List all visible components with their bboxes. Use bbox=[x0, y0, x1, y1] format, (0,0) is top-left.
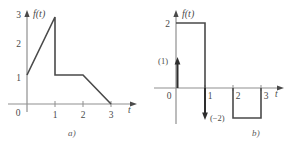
pulse-positive-b bbox=[176, 23, 205, 88]
x-tick-a-2: 2 bbox=[81, 110, 86, 120]
x-tick-b-1: 1 bbox=[208, 91, 213, 101]
y-tick-a-2: 2 bbox=[16, 39, 21, 49]
y-axis-label-b: f(t) bbox=[182, 8, 195, 20]
y-tick-a-1: 1 bbox=[16, 73, 21, 83]
figure-panel-b: f(t) t 0 2 1 2 3 (1) bbox=[148, 0, 297, 147]
panel-caption-a: a) bbox=[68, 128, 76, 138]
plot-a: f(t) t 0 1 2 3 1 2 3 bbox=[0, 0, 148, 147]
x-tick-a-3: 3 bbox=[109, 110, 114, 120]
figure-pair: f(t) t 0 1 2 3 1 2 3 a) bbox=[0, 0, 297, 147]
x-axis-label-b: t bbox=[275, 89, 278, 99]
x-axis-b bbox=[154, 85, 284, 90]
origin-label-a: 0 bbox=[16, 108, 21, 118]
impulse-positive-label-b: (1) bbox=[158, 56, 168, 66]
origin-label-b: 0 bbox=[167, 91, 172, 101]
curve-a bbox=[27, 17, 111, 104]
y-axis-a bbox=[24, 10, 29, 112]
x-tick-b-2: 2 bbox=[236, 91, 241, 101]
impulse-negative-label-b: (−2) bbox=[210, 113, 225, 123]
x-axis-label-a: t bbox=[128, 105, 131, 115]
plot-b: f(t) t 0 2 1 2 3 (1) bbox=[148, 0, 297, 147]
figure-panel-a: f(t) t 0 1 2 3 1 2 3 a) bbox=[0, 0, 148, 147]
y-tick-a-3: 3 bbox=[16, 10, 21, 20]
x-tick-a-1: 1 bbox=[53, 110, 58, 120]
panel-caption-b: b) bbox=[252, 128, 260, 138]
y-tick-b-2: 2 bbox=[165, 19, 170, 29]
x-tick-b-3: 3 bbox=[264, 91, 269, 101]
y-axis-label-a: f(t) bbox=[33, 8, 46, 20]
